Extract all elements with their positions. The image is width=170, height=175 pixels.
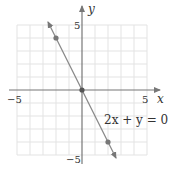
x-max-label: 5 xyxy=(142,94,148,105)
graph: y x 5 −5 −5 5 2x + y = 0 xyxy=(0,0,170,175)
point-neg2-4 xyxy=(53,35,58,40)
y-min-label: −5 xyxy=(66,154,81,165)
x-min-label: −5 xyxy=(7,94,22,105)
y-axis-label: y xyxy=(87,2,95,16)
line-2x-plus-y-eq-0 xyxy=(48,22,82,90)
point-origin xyxy=(79,87,84,92)
point-2-neg4 xyxy=(105,139,110,144)
equation-label: 2x + y = 0 xyxy=(104,113,168,127)
y-max-label: 5 xyxy=(74,20,80,31)
x-axis-label: x xyxy=(157,92,164,106)
